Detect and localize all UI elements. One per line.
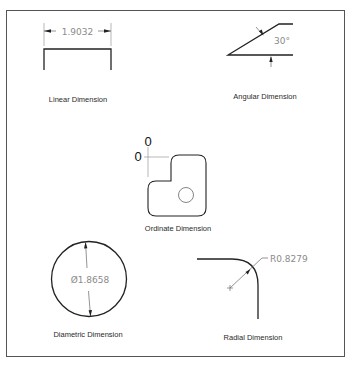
angular-dimension-group: 30° Angular Dimension — [228, 24, 297, 101]
diametric-arrow-top-icon — [84, 242, 87, 249]
angular-value: 30° — [274, 36, 290, 46]
figure-frame — [7, 11, 345, 357]
ordinate-dimension-group: 0 0 Ordinate Dimension — [134, 134, 211, 233]
ordinate-caption: Ordinate Dimension — [145, 224, 211, 233]
linear-shape — [44, 49, 111, 70]
linear-arrow-right-icon — [104, 29, 111, 32]
diametric-caption: Diametric Dimension — [53, 330, 122, 339]
diametric-arrow-bottom-icon — [89, 310, 92, 317]
radial-arrow-icon — [246, 269, 251, 275]
radial-value: R0.8279 — [270, 254, 308, 264]
diametric-dimension-group: Ø1.8658 Diametric Dimension — [52, 242, 127, 339]
ordinate-y-value: 0 — [134, 149, 141, 164]
radial-dimension-group: R0.8279 Radial Dimension — [197, 254, 308, 342]
linear-value: 1.9032 — [62, 27, 94, 37]
linear-dimension-group: 1.9032 Linear Dimension — [44, 23, 111, 104]
radial-caption: Radial Dimension — [224, 333, 283, 342]
radial-leader-line — [230, 258, 268, 288]
ordinate-part-outline — [148, 155, 206, 216]
angular-arrow-bottom-icon — [269, 56, 272, 62]
ordinate-hole — [179, 188, 194, 203]
diametric-value: Ø1.8658 — [71, 275, 110, 285]
angular-caption: Angular Dimension — [233, 92, 296, 101]
linear-caption: Linear Dimension — [49, 95, 107, 104]
ordinate-x-value: 0 — [144, 134, 151, 149]
radial-fillet-outline — [197, 259, 258, 319]
linear-arrow-left-icon — [44, 29, 51, 32]
dimension-types-diagram: 1.9032 Linear Dimension 30° Angular Dime… — [0, 0, 351, 366]
